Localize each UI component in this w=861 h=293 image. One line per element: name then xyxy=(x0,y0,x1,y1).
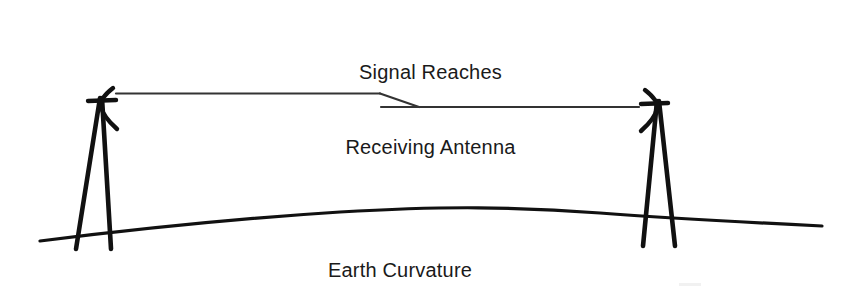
earth-curvature-arc xyxy=(40,208,822,241)
diagram-canvas: Signal Reaches Receiving Antenna Earth C… xyxy=(0,0,861,293)
earth-curvature-label: Earth Curvature xyxy=(0,258,800,283)
signal-title-label: Signal Reaches Receiving Antenna xyxy=(0,10,861,210)
signal-title-line-1: Signal Reaches xyxy=(0,60,861,85)
scan-artifact xyxy=(679,283,701,286)
signal-title-line-2: Receiving Antenna xyxy=(0,135,861,160)
